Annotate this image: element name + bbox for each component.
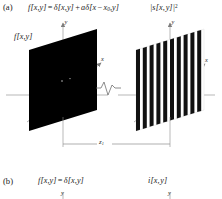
diagram-graphics (0, 0, 222, 199)
x-axis-label-left: x (101, 56, 104, 62)
panel-b-caption: (b) (3, 177, 13, 186)
input-plane-label: f[x,y] (14, 33, 33, 41)
y-axis-label-left-b: y (61, 190, 64, 196)
panel-b-image-equation: i[x, y] (148, 177, 167, 185)
wave-zigzag-icon (96, 82, 121, 95)
output-plane-group (118, 23, 215, 131)
point-source-origin (61, 80, 63, 82)
distance-label: z1 (99, 139, 104, 146)
figure-container: (a) f[x,y] = δ[x,y] + aδ[x − x0,y] |s[x,… (0, 0, 222, 199)
x-axis-label-right: x (205, 57, 208, 63)
fringe-plane (136, 29, 204, 131)
point-source-offset (69, 78, 70, 79)
wave-symbol-group (96, 82, 121, 95)
y-axis-label-right-b: y (168, 190, 171, 196)
panel-b-object-equation: f[x,y] = δ[x,y] (38, 177, 84, 185)
y-axis-label-left: y (65, 19, 68, 25)
y-axis-label-right: y (172, 19, 175, 25)
panel-b-axes (63, 192, 170, 199)
object-plane-black (29, 29, 97, 131)
